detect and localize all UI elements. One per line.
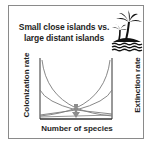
- title-line-1: Small close islands vs.: [18, 22, 110, 33]
- rate-curves-plot: [36, 56, 116, 122]
- title-line-2: large distant islands: [18, 33, 110, 44]
- palm-island-icon: [110, 8, 146, 52]
- y-axis-label-left: Colonization rate: [22, 50, 34, 120]
- diagram-title: Small close islands vs. large distant is…: [18, 22, 110, 44]
- y-axis-label-right: Extinction rate: [133, 50, 145, 120]
- x-axis-label: Number of species: [36, 124, 118, 133]
